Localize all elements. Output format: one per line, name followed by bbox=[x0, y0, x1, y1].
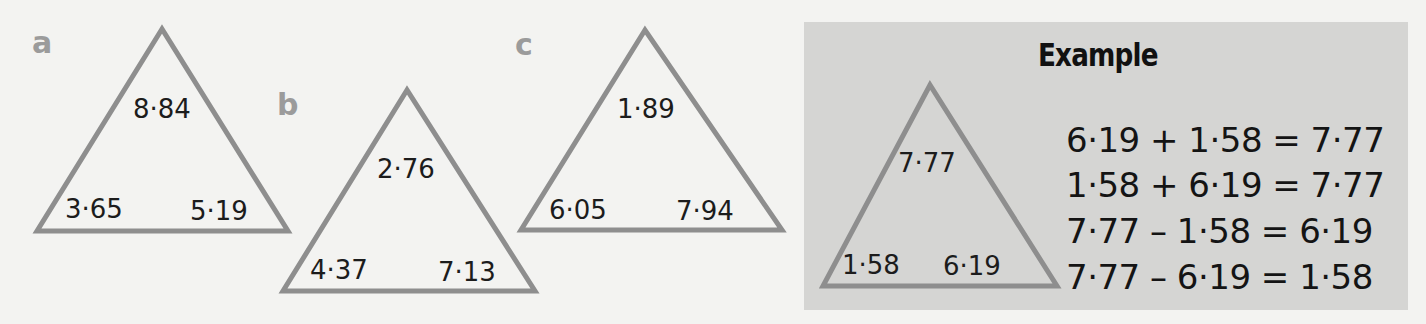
example-equation-1: 6·19 + 1·58 = 7·77 bbox=[1066, 123, 1384, 157]
example-equation-3: 7·77 – 1·58 = 6·19 bbox=[1066, 214, 1373, 248]
problem-b-label: b bbox=[277, 90, 298, 120]
problem-b-bottom-left-value: 4·37 bbox=[310, 257, 368, 283]
example-bottom-right-value: 6·19 bbox=[943, 253, 1001, 279]
example-top-value: 7·77 bbox=[898, 150, 956, 176]
example-equation-4: 7·77 – 6·19 = 1·58 bbox=[1066, 260, 1373, 294]
example-equation-2: 1·58 + 6·19 = 7·77 bbox=[1066, 168, 1384, 202]
problem-a-top-value: 8·84 bbox=[133, 96, 191, 122]
problem-a-bottom-right-value: 5·19 bbox=[190, 198, 248, 224]
problem-c-label: c bbox=[515, 30, 533, 60]
problem-a-bottom-left-value: 3·65 bbox=[65, 196, 123, 222]
problem-b-bottom-right-value: 7·13 bbox=[438, 259, 496, 285]
problem-c-bottom-left-value: 6·05 bbox=[549, 197, 607, 223]
problem-b-top-value: 2·76 bbox=[377, 156, 435, 182]
example-bottom-left-value: 1·58 bbox=[842, 252, 900, 278]
problem-c-bottom-right-value: 7·94 bbox=[676, 198, 734, 224]
problem-a-label: a bbox=[32, 28, 52, 58]
example-title: Example bbox=[1038, 36, 1158, 74]
problem-c-top-value: 1·89 bbox=[617, 96, 675, 122]
